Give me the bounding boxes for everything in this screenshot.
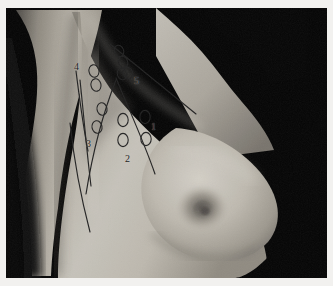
clinical-photograph: 1 2 3 4 5 xyxy=(6,8,327,278)
figure-container: 1 2 3 4 5 xyxy=(0,0,333,286)
photograph-canvas xyxy=(6,8,327,278)
